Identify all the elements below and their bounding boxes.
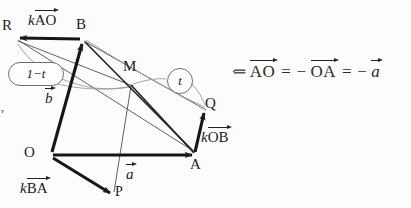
point-label-R: R — [2, 18, 12, 33]
arrow-tip-icon — [54, 8, 59, 12]
overarrow-AO: AO — [35, 10, 59, 28]
point-label-O: O — [24, 145, 35, 160]
arc-M-to-t — [133, 79, 166, 84]
overarrow-OA-equation: OA — [311, 60, 339, 82]
overarrow-AO-equation: AO — [250, 60, 278, 82]
overarrow-BA: BA — [27, 178, 50, 196]
arrow-tip-icon — [51, 86, 56, 90]
vector-label-kAO: kAO — [28, 10, 58, 28]
equation-annotation: ⇐ AO = − OA = − a — [232, 60, 382, 82]
equals-sign-2: = — [341, 62, 353, 82]
equals-sign-1: = — [280, 62, 292, 82]
vector-B-to-R — [20, 38, 80, 39]
point-label-P: P — [115, 185, 123, 199]
arrow-tip-icon — [273, 58, 278, 62]
scalar-k-kBA: k — [20, 180, 27, 196]
vector-name-OB: OB — [208, 130, 231, 145]
vector-name-AO: AO — [35, 13, 59, 28]
overbar — [27, 178, 47, 179]
leftwards-double-arrow-icon: ⇐ — [232, 61, 247, 82]
vector-label-kBA: kBA — [20, 178, 50, 196]
scalar-k-kOB: k — [201, 129, 208, 145]
point-label-A: A — [190, 157, 201, 172]
vector-name-a: a — [126, 167, 136, 182]
point-label-Q: Q — [205, 96, 216, 111]
line-B-to-A-thin — [85, 42, 193, 151]
overbar — [35, 10, 56, 11]
bubble-one-minus-t: 1−t — [8, 62, 64, 86]
minus-sign-1: − — [295, 62, 307, 82]
median-lines — [85, 42, 194, 153]
vector-label-kOB: kOB — [201, 127, 231, 145]
scalar-k-kAO: k — [28, 12, 35, 28]
vector-label-a: a — [126, 164, 136, 182]
equation-term-AO: AO — [250, 62, 278, 82]
vector-O-to-P — [53, 158, 110, 193]
vector-name-BA: BA — [27, 181, 50, 196]
vector-label-b: b — [45, 88, 55, 106]
overarrow-a: a — [126, 164, 136, 182]
vector-name-b: b — [45, 91, 55, 106]
overarrow-a-equation: a — [371, 60, 382, 82]
figure-page: R B M Q O A P kAO b a kBA kOB 1−t t , ⇐ … — [0, 0, 411, 208]
arrow-tip-icon — [378, 58, 383, 62]
bubble-t: t — [167, 68, 193, 94]
point-label-B: B — [76, 17, 86, 32]
equation-term-OA: OA — [311, 62, 339, 82]
point-label-M: M — [123, 59, 136, 74]
minus-sign-2: − — [356, 62, 368, 82]
overbar — [250, 60, 275, 61]
arrow-tip-icon — [46, 176, 51, 180]
overbar — [208, 127, 228, 128]
overarrow-b: b — [45, 88, 55, 106]
edge-mark: , — [1, 99, 4, 115]
arrow-tip-icon — [227, 125, 232, 129]
overarrow-OB: OB — [208, 127, 231, 145]
arrow-tip-icon — [334, 58, 339, 62]
equation-term-a: a — [371, 62, 382, 82]
overbar — [311, 60, 336, 61]
arrow-tip-icon — [132, 162, 137, 166]
